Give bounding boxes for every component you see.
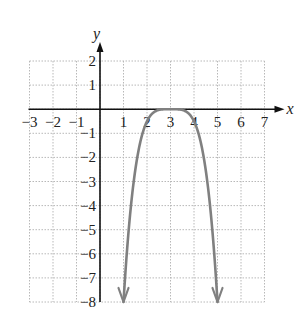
x-tick-label: −2	[45, 114, 61, 130]
x-axis-label: x	[286, 100, 294, 117]
x-axis-arrow-icon	[275, 106, 285, 113]
y-tick-label: −1	[80, 125, 96, 141]
y-tick-label: −3	[80, 174, 96, 190]
y-tick-label: 1	[89, 77, 97, 93]
x-tick-label: 1	[120, 114, 128, 130]
y-tick-label: −6	[80, 246, 96, 262]
y-tick-label: −8	[80, 294, 96, 310]
y-axis-label: y	[91, 25, 101, 43]
function-graph: xy−3−2−1123456721−1−2−3−4−5−6−7−8	[0, 0, 303, 319]
y-tick-label: 2	[89, 53, 97, 69]
x-tick-label: 5	[214, 114, 222, 130]
y-tick-label: −7	[80, 270, 96, 286]
y-tick-label: −4	[80, 198, 96, 214]
y-axis-arrow-icon	[97, 42, 104, 52]
x-tick-label: 7	[261, 114, 269, 130]
x-tick-label: 6	[237, 114, 245, 130]
y-tick-label: −2	[80, 149, 96, 165]
x-tick-label: 3	[167, 114, 175, 130]
y-tick-label: −5	[80, 222, 96, 238]
x-tick-label: −3	[22, 114, 38, 130]
